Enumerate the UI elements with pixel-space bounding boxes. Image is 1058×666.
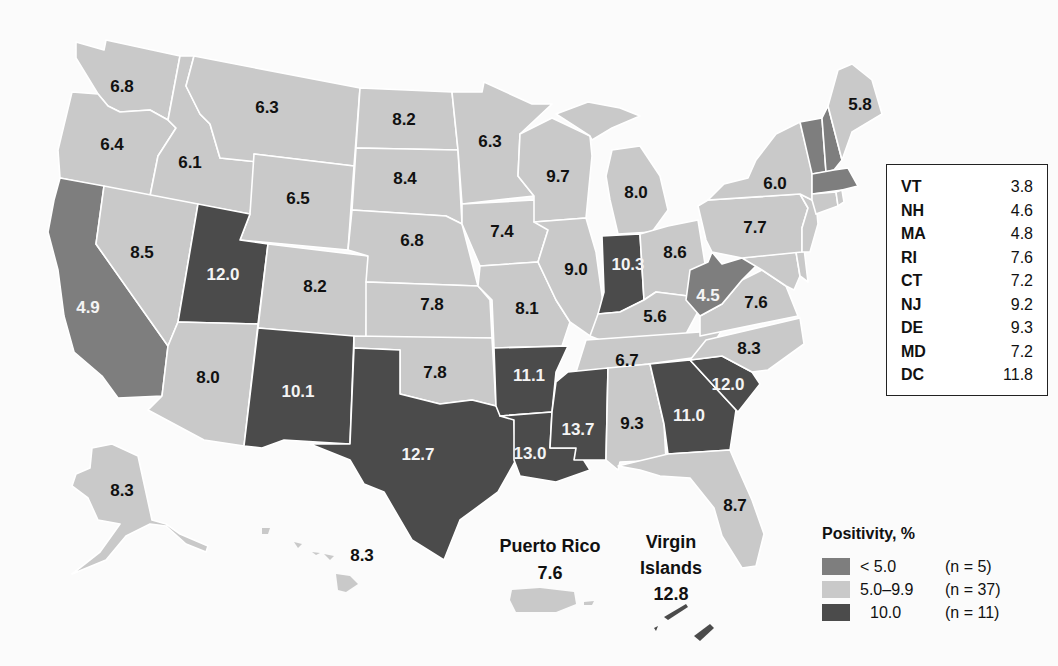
- state-label-oh: 8.6: [663, 243, 687, 262]
- state-label-mi: 8.0: [624, 183, 648, 202]
- inset-state-abbr: DE: [901, 316, 923, 340]
- state-label-ca: 4.9: [76, 298, 100, 317]
- small-states-inset-table: VT3.8NH4.6MA4.8RI7.6CT7.2NJ9.2DE9.3MD7.2…: [886, 164, 1048, 396]
- legend-range-label: < 5.0: [860, 558, 945, 576]
- puerto-rico-value: 7.6: [537, 563, 562, 583]
- state-label-ak: 8.3: [110, 481, 134, 500]
- state-label-wi: 9.7: [546, 167, 570, 186]
- inset-state-value: 7.2: [1011, 269, 1033, 293]
- state-label-ia: 7.4: [490, 222, 514, 241]
- inset-state-abbr: NJ: [901, 293, 921, 317]
- inset-row-ri: RI7.6: [901, 246, 1033, 270]
- state-label-or: 6.4: [100, 135, 124, 154]
- state-hi-big: [336, 574, 358, 592]
- virgin-islands-name-2: Islands: [640, 558, 702, 578]
- inset-row-vt: VT3.8: [901, 175, 1033, 199]
- legend-item-low: < 5.0(n = 5): [822, 555, 1052, 578]
- state-label-sd: 8.4: [393, 169, 417, 188]
- state-label-nv: 8.5: [130, 243, 154, 262]
- state-label-ks: 7.8: [420, 295, 444, 314]
- state-label-il: 9.0: [564, 260, 588, 279]
- state-label-in: 10.3: [611, 255, 644, 274]
- state-label-fl: 8.7: [723, 496, 747, 515]
- state-label-nd: 8.2: [392, 110, 416, 129]
- state-label-wa: 6.8: [110, 77, 134, 96]
- inset-row-dc: DC11.8: [901, 363, 1033, 387]
- state-label-wv: 4.5: [696, 286, 720, 305]
- territory-vi-stcroix: [694, 624, 714, 641]
- state-label-ne: 6.8: [400, 231, 424, 250]
- inset-row-de: DE9.3: [901, 316, 1033, 340]
- state-label-me: 5.8: [848, 95, 872, 114]
- territory-vi-stjohn: [654, 626, 658, 631]
- virgin-islands-value: 12.8: [653, 584, 688, 604]
- state-hi-oahu: [294, 542, 302, 548]
- inset-state-value: 9.3: [1011, 316, 1033, 340]
- legend-range-label: 5.0–9.9: [860, 581, 945, 599]
- state-hi-molokai: [312, 552, 320, 555]
- legend-count: (n = 37): [945, 581, 1001, 599]
- state-label-nm: 10.1: [281, 382, 314, 401]
- inset-state-abbr: NH: [901, 199, 924, 223]
- state-label-ga: 11.0: [673, 406, 705, 425]
- inset-state-value: 4.6: [1011, 199, 1033, 223]
- state-label-id: 6.1: [178, 153, 202, 172]
- state-label-pa: 7.7: [743, 218, 767, 237]
- inset-row-ct: CT7.2: [901, 269, 1033, 293]
- state-label-wy: 6.5: [286, 189, 310, 208]
- state-label-hi: 8.3: [350, 546, 374, 565]
- inset-row-nh: NH4.6: [901, 199, 1033, 223]
- territory-vi-stthomas: [664, 604, 688, 620]
- insets-layer: [72, 444, 358, 592]
- legend-item-high: 10.0(n = 11): [822, 601, 1052, 624]
- inset-state-value: 3.8: [1011, 175, 1033, 199]
- state-hi-kauai: [262, 528, 270, 534]
- state-label-ar: 11.1: [513, 366, 545, 385]
- state-label-az: 8.0: [196, 368, 220, 387]
- state-label-ms: 13.7: [561, 420, 594, 439]
- legend-item-mid: 5.0–9.9(n = 37): [822, 578, 1052, 601]
- puerto-rico-name: Puerto Rico: [499, 536, 600, 556]
- virgin-islands-name-1: Virgin: [646, 532, 697, 552]
- state-label-tx: 12.7: [401, 445, 434, 464]
- state-label-mn: 6.3: [478, 132, 502, 151]
- state-label-nc: 8.3: [737, 339, 761, 358]
- legend-title: Positivity, %: [822, 525, 1052, 543]
- state-label-mo: 8.1: [515, 299, 539, 318]
- inset-state-value: 7.6: [1011, 246, 1033, 270]
- inset-state-abbr: MA: [901, 222, 926, 246]
- state-label-tn: 6.7: [615, 351, 639, 370]
- legend-range-label: 10.0: [860, 604, 945, 622]
- state-ct: [812, 192, 838, 214]
- inset-state-value: 7.2: [1011, 340, 1033, 364]
- state-ms: [550, 368, 608, 460]
- legend-swatch: [822, 581, 850, 598]
- legend-count: (n = 5): [945, 558, 992, 576]
- state-label-ok: 7.8: [423, 363, 447, 382]
- inset-state-value: 11.8: [1003, 363, 1033, 387]
- state-label-ky: 5.6: [643, 307, 667, 326]
- state-label-ut: 12.0: [206, 265, 239, 284]
- inset-state-abbr: DC: [901, 363, 924, 387]
- state-label-al: 9.3: [620, 414, 644, 433]
- state-label-co: 8.2: [303, 277, 327, 296]
- legend-swatch: [822, 558, 850, 575]
- state-label-sc: 12.0: [711, 375, 744, 394]
- inset-state-value: 9.2: [1011, 293, 1033, 317]
- state-label-mt: 6.3: [255, 98, 279, 117]
- inset-row-ma: MA4.8: [901, 222, 1033, 246]
- territory-puerto-rico: [510, 588, 576, 612]
- legend-swatch: [822, 604, 850, 621]
- inset-state-abbr: MD: [901, 340, 926, 364]
- legend: Positivity, % < 5.0(n = 5)5.0–9.9(n = 37…: [822, 525, 1052, 624]
- state-ri: [836, 190, 844, 206]
- legend-count: (n = 11): [945, 604, 999, 622]
- inset-state-abbr: RI: [901, 246, 917, 270]
- state-label-la: 13.0: [513, 444, 546, 463]
- state-hi-maui: [324, 554, 334, 560]
- inset-state-abbr: VT: [901, 175, 921, 199]
- inset-state-abbr: CT: [901, 269, 922, 293]
- state-ak: [72, 444, 208, 574]
- territory-pr-vieques: [584, 601, 594, 605]
- state-label-ny: 6.0: [763, 174, 787, 193]
